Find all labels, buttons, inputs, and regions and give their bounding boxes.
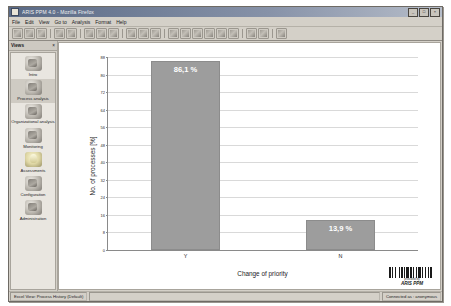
application-window: ARIS PPM 4.0 - Mozilla Firefox _ □ × Fil… xyxy=(8,6,443,302)
zoom-in-icon[interactable] xyxy=(246,28,257,39)
menu-item-goto[interactable]: Go to xyxy=(54,19,66,25)
sidebar-item-label: Intro xyxy=(29,72,37,77)
y-axis-label: No. of processes [%] xyxy=(89,137,96,196)
status-right: Connected as : anonymous xyxy=(382,292,441,301)
save-icon[interactable] xyxy=(96,28,107,39)
x-tick-label: Y xyxy=(184,253,188,259)
status-left: Excel View: Process History (Default) xyxy=(10,292,87,301)
grid-line xyxy=(108,57,418,58)
table-icon[interactable] xyxy=(168,28,179,39)
toolbar-separator xyxy=(272,29,273,38)
sort-icon[interactable] xyxy=(216,28,227,39)
menu-item-edit[interactable]: Edit xyxy=(25,19,34,25)
filter-icon[interactable] xyxy=(192,28,203,39)
menu-item-view[interactable]: View xyxy=(39,19,50,25)
toolbar-separator xyxy=(80,29,81,38)
sidebar-item-assessments[interactable]: Assessments xyxy=(11,151,55,175)
title-bar: ARIS PPM 4.0 - Mozilla Firefox _ □ × xyxy=(9,7,442,17)
plot-area: 081624324048566472808886,1 %Y13,9 %N xyxy=(107,57,418,251)
toolbar-separator xyxy=(242,29,243,38)
chart-line-icon[interactable] xyxy=(150,28,161,39)
menu-bar: File Edit View Go to Analysis Format Hel… xyxy=(9,17,442,27)
print-icon[interactable] xyxy=(84,28,95,39)
y-tick-mark xyxy=(106,92,108,93)
bar[interactable]: 86,1 % xyxy=(151,61,219,250)
status-bar: Excel View: Process History (Default) Co… xyxy=(9,291,442,301)
status-middle xyxy=(89,292,380,301)
badge-brand: ARIS PPM xyxy=(401,281,423,286)
bar[interactable]: 13,9 % xyxy=(306,220,374,250)
bar-chart: No. of processes [%] 0816243240485664728… xyxy=(59,43,440,289)
y-tick-mark xyxy=(106,250,108,251)
person-icon[interactable] xyxy=(204,28,215,39)
window-title: ARIS PPM 4.0 - Mozilla Firefox xyxy=(22,9,408,15)
chart-pie-icon[interactable] xyxy=(138,28,149,39)
y-tick-label: 40 xyxy=(101,160,105,165)
window-controls: _ □ × xyxy=(408,8,440,17)
y-tick-label: 88 xyxy=(101,55,105,60)
maximize-button[interactable]: □ xyxy=(419,8,429,17)
x-axis-label: Change of priority xyxy=(107,270,418,277)
admin-icon xyxy=(25,200,42,215)
sidebar-item-intro[interactable]: Intro xyxy=(11,55,55,79)
sidebar-item-label: Administration xyxy=(20,216,47,221)
y-tick-label: 0 xyxy=(103,248,105,253)
help-icon[interactable] xyxy=(276,28,287,39)
back-icon[interactable] xyxy=(24,28,35,39)
sidebar-item-process-analysis[interactable]: Process analysis xyxy=(11,79,55,103)
menu-item-file[interactable]: File xyxy=(12,19,20,25)
y-tick-mark xyxy=(106,110,108,111)
content-pane: No. of processes [%] 0816243240485664728… xyxy=(58,42,441,290)
sidebar-list: Intro Process analysis Organizational an… xyxy=(10,52,56,290)
stop-icon[interactable] xyxy=(66,28,77,39)
chart-bar-icon[interactable] xyxy=(126,28,137,39)
y-tick-label: 64 xyxy=(101,107,105,112)
toolbar-separator xyxy=(50,29,51,38)
menu-item-format[interactable]: Format xyxy=(95,19,111,25)
house-icon xyxy=(25,56,42,71)
y-tick-label: 16 xyxy=(101,212,105,217)
sidebar-item-monitoring[interactable]: Monitoring xyxy=(11,127,55,151)
close-button[interactable]: × xyxy=(430,8,440,17)
y-tick-mark xyxy=(106,75,108,76)
cursor-icon[interactable] xyxy=(12,28,23,39)
y-tick-mark xyxy=(106,162,108,163)
sidebar-item-label: Process analysis xyxy=(17,96,48,101)
forward-icon[interactable] xyxy=(36,28,47,39)
process-icon xyxy=(25,80,42,95)
refresh-icon[interactable] xyxy=(54,28,65,39)
grid-icon[interactable] xyxy=(180,28,191,39)
y-tick-mark xyxy=(106,57,108,58)
sidebar-item-configuration[interactable]: Configuration xyxy=(11,175,55,199)
toolbar xyxy=(9,27,442,41)
copy-icon[interactable] xyxy=(108,28,119,39)
toolbar-separator xyxy=(122,29,123,38)
sidebar-item-label: Configuration xyxy=(21,192,46,197)
toolbar-separator xyxy=(164,29,165,38)
sidebar-header: Views × xyxy=(9,41,57,51)
screenshot-root: ARIS PPM 4.0 - Mozilla Firefox _ □ × Fil… xyxy=(0,0,451,306)
sidebar-item-organizational-analysis[interactable]: Organizational analysis xyxy=(11,103,55,127)
org-icon xyxy=(25,104,42,119)
bar-value-label: 13,9 % xyxy=(307,224,373,233)
sidebar-item-administration[interactable]: Administration xyxy=(11,199,55,223)
y-tick-mark xyxy=(106,197,108,198)
barcode-icon xyxy=(389,267,435,278)
export-icon[interactable] xyxy=(228,28,239,39)
minimize-button[interactable]: _ xyxy=(408,8,418,17)
y-tick-mark xyxy=(106,127,108,128)
y-tick-label: 72 xyxy=(101,90,105,95)
y-tick-mark xyxy=(106,145,108,146)
brand-badge: provided by ARIS PPM xyxy=(388,267,436,286)
zoom-out-icon[interactable] xyxy=(258,28,269,39)
menu-item-analysis[interactable]: Analysis xyxy=(72,19,91,25)
y-tick-mark xyxy=(106,180,108,181)
sidebar-item-label: Monitoring xyxy=(23,144,43,149)
menu-item-help[interactable]: Help xyxy=(116,19,126,25)
sidebar-close-icon[interactable]: × xyxy=(52,43,55,48)
y-tick-label: 32 xyxy=(101,177,105,182)
sidebar-item-label: Organizational analysis xyxy=(11,120,54,125)
y-tick-label: 80 xyxy=(101,72,105,77)
y-tick-mark xyxy=(106,232,108,233)
y-tick-label: 24 xyxy=(101,195,105,200)
